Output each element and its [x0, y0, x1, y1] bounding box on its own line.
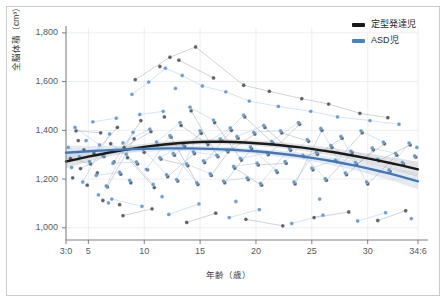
- legend-label-typical: 定型発達児: [371, 19, 416, 30]
- x-axis-title: 年齢（歳）: [168, 268, 288, 280]
- y-axis-title: 全脳体積（cm³）: [9, 0, 23, 92]
- legend-swatch-asd: [352, 39, 365, 43]
- x-tick-label: 5: [68, 247, 108, 256]
- y-tick-label: 1,000: [35, 223, 58, 232]
- x-tick-label: 34:6: [398, 247, 438, 256]
- x-tick-label: 10: [124, 247, 164, 256]
- legend-item-asd: ASD児: [352, 35, 438, 46]
- grid-lines: [66, 28, 418, 240]
- x-tick-label: 15: [180, 247, 220, 256]
- y-tick-label: 1,600: [35, 77, 58, 86]
- y-axis-tick-labels: 1,0001,2001,4001,6001,800: [20, 0, 58, 304]
- x-tick-label: 30: [348, 247, 388, 256]
- y-tick-label: 1,400: [35, 126, 58, 135]
- x-tick-label: 20: [236, 247, 276, 256]
- legend-swatch-typical: [352, 23, 365, 27]
- chart-legend: 定型発達児 ASD児: [352, 19, 438, 51]
- legend-item-typical: 定型発達児: [352, 19, 438, 30]
- data-points: [66, 45, 418, 228]
- axis-lines: [62, 26, 428, 244]
- y-tick-label: 1,200: [35, 175, 58, 184]
- y-tick-label: 1,800: [35, 28, 58, 37]
- subject-link-lines: [68, 47, 410, 226]
- x-tick-label: 25: [292, 247, 332, 256]
- legend-label-asd: ASD児: [371, 35, 399, 46]
